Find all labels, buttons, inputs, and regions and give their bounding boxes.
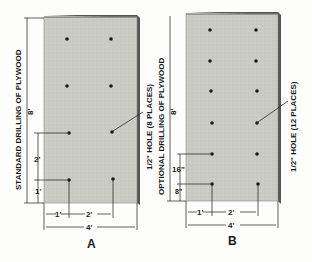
hole [255, 89, 259, 93]
panel-a-face [44, 17, 137, 203]
panel-b-vert-dim-1: 16" [172, 165, 185, 174]
hole [209, 89, 213, 93]
panel-b-hole-label: 1/2" HOLE (12 PLACES) [289, 81, 298, 172]
hole [65, 84, 69, 88]
hole [65, 37, 69, 41]
panel-a-width-label: 4' [86, 223, 92, 232]
panel-a-height-label: 8' [26, 109, 35, 115]
panel-b: OPTIONAL DRILLING OF PLYWOOD 8' 16" 8" 1… [157, 12, 298, 248]
hole [109, 84, 113, 88]
hole [254, 59, 258, 63]
panel-a-hole-label: 1/2" HOLE (8 PLACES) [145, 84, 154, 170]
panel-b-face [186, 14, 278, 201]
panel-b-vert-dim-2: 8" [175, 188, 182, 195]
panel-b-side-label: OPTIONAL DRILLING OF PLYWOOD [157, 57, 166, 195]
hole [255, 152, 259, 156]
panel-b-width-label: 4' [228, 221, 234, 230]
panel-a-vert-dim-1: 2' [34, 155, 40, 164]
panel-a-side-label: STANDARD DRILLING OF PLYWOOD [14, 49, 23, 190]
hole [208, 28, 212, 32]
hole [208, 59, 212, 63]
panel-a-vert-dim-2: 1' [35, 187, 41, 196]
panel-a-caption: A [87, 237, 96, 251]
hole [109, 37, 113, 41]
panel-a-horiz-dim-1: 1' [55, 210, 61, 219]
hole [210, 121, 214, 125]
panel-b-caption: B [228, 234, 237, 248]
panel-a: STANDARD DRILLING OF PLYWOOD 8' 2' 1' 1'… [14, 15, 154, 251]
panel-b-horiz-dim-2: 2' [228, 208, 234, 217]
panel-a-horiz-dim-2: 2' [86, 210, 92, 219]
hole [210, 152, 214, 156]
hole [67, 131, 71, 135]
plywood-drilling-diagram: STANDARD DRILLING OF PLYWOOD 8' 2' 1' 1'… [0, 0, 312, 262]
hole [254, 28, 258, 32]
panel-b-height-label: 8' [169, 109, 178, 115]
panel-b-horiz-dim-1: 1' [197, 208, 203, 217]
